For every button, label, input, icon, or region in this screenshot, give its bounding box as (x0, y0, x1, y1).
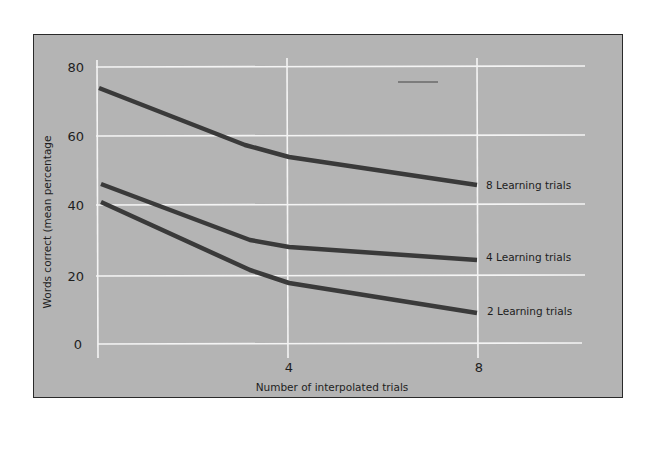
x-tick-4: 4 (285, 360, 293, 375)
x-tick-labels: 4 8 (285, 360, 483, 375)
horizontal-gridlines (96, 66, 585, 344)
gridline-60 (96, 135, 585, 136)
y-tick-labels: 80 60 40 20 0 (67, 60, 84, 352)
vertical-gridlines (97, 58, 478, 358)
series-4-learning-trials (101, 184, 477, 260)
label-4-learning-trials: 4 Learning trials (486, 251, 571, 263)
gridline-80 (96, 66, 585, 67)
y-tick-80: 80 (67, 60, 84, 75)
label-8-learning-trials: 8 Learning trials (486, 179, 571, 191)
x-axis-label: Number of interpolated trials (256, 381, 409, 393)
y-tick-40: 40 (67, 198, 84, 213)
x-tick-8: 8 (475, 360, 483, 375)
gridline-x-8 (477, 58, 478, 358)
line-chart: 80 60 40 20 0 4 8 Number of interpolated… (0, 0, 646, 452)
y-tick-60: 60 (67, 129, 84, 144)
y-axis-line (97, 60, 98, 358)
y-axis-label: Words correct (mean percentage (41, 136, 53, 309)
series-labels: 8 Learning trials 4 Learning trials 2 Le… (486, 179, 572, 317)
gridline-0 (98, 343, 582, 344)
gridline-x-4 (287, 58, 288, 358)
label-2-learning-trials: 2 Learning trials (487, 305, 572, 317)
gridline-40 (96, 204, 585, 205)
y-tick-20: 20 (67, 269, 84, 284)
y-tick-0: 0 (74, 337, 82, 352)
gridline-20 (96, 275, 585, 276)
